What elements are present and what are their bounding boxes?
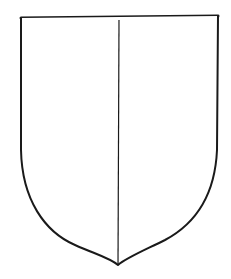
- shield-figure: [0, 0, 231, 279]
- shield-drawing: [0, 0, 231, 279]
- shield-outline: [21, 16, 218, 265]
